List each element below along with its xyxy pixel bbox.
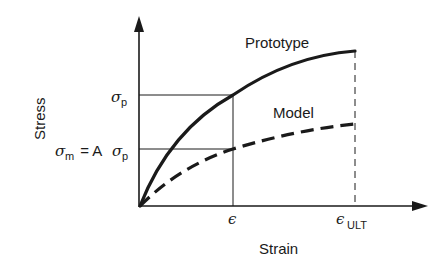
x-axis-arrow-icon: [412, 201, 428, 211]
svg-text:ULT: ULT: [347, 219, 367, 231]
stress-strain-diagram: Prototype Model Stress Strain σ p σ m = …: [0, 0, 446, 273]
x-axis-label: Strain: [259, 240, 298, 257]
svg-text:ϵ: ϵ: [336, 210, 345, 228]
epsilon-tick-label: ϵ: [228, 210, 237, 228]
prototype-label: Prototype: [245, 34, 309, 51]
x-axis: [139, 201, 428, 211]
y-axis-arrow-icon: [134, 16, 144, 32]
svg-text:p: p: [121, 96, 127, 108]
svg-text:p: p: [122, 150, 128, 162]
sigma-p-tick-label: σ p: [111, 88, 127, 108]
svg-text:= A: = A: [76, 142, 102, 159]
y-axis-label: Stress: [31, 97, 48, 140]
svg-text:ϵ: ϵ: [228, 210, 237, 228]
model-label: Model: [273, 104, 314, 121]
y-axis: [134, 16, 144, 207]
model-curve: [140, 124, 355, 206]
sigma-m-tick-label: σ m = A σ p: [55, 142, 128, 162]
epsilon-ult-tick-label: ϵ ULT: [336, 210, 367, 231]
svg-text:m: m: [65, 150, 74, 162]
